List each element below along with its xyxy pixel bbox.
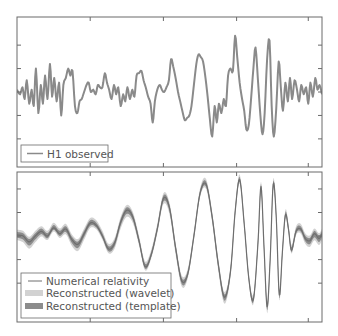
bottom-legend: Numerical relativity Reconstructed (wave… xyxy=(21,273,181,318)
bottom-panel: Numerical relativity Reconstructed (wave… xyxy=(17,172,322,322)
legend-label-wavelet: Reconstructed (wavelet) xyxy=(46,287,174,299)
legend-label-template: Reconstructed (template) xyxy=(46,300,181,312)
legend-label-numerical-relativity: Numerical relativity xyxy=(46,275,149,287)
top-plot-area xyxy=(17,36,322,137)
top-panel: H1 observed xyxy=(17,17,322,167)
h1-observed-line xyxy=(17,36,322,137)
waveform-figure: H1 observed Numerical relativity Reconst… xyxy=(0,0,338,336)
top-legend: H1 observed xyxy=(21,145,114,162)
template-band-icon xyxy=(25,303,43,309)
wavelet-band-icon xyxy=(25,290,43,296)
legend-label-h1-observed: H1 observed xyxy=(47,148,114,160)
